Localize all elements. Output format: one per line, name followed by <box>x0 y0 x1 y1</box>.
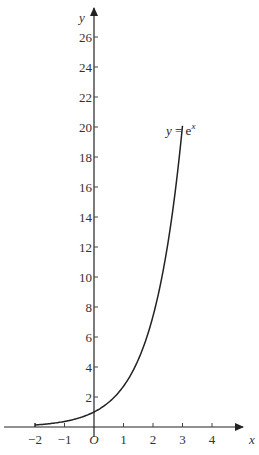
y-tick-label: 6 <box>86 330 93 345</box>
y-tick-label: 2 <box>86 390 93 405</box>
origin-label: O <box>89 432 99 447</box>
y-tick-label: 10 <box>79 270 92 285</box>
x-tick-label: 2 <box>150 432 157 447</box>
y-tick-label: 8 <box>86 300 93 315</box>
y-tick-label: 14 <box>79 210 93 225</box>
curve-y-equals-exp-x <box>35 126 183 427</box>
x-tick-label: 1 <box>120 432 127 447</box>
x-tick-label: 3 <box>179 432 186 447</box>
y-tick-label: 12 <box>79 240 92 255</box>
axes <box>4 8 243 437</box>
x-axis-label: x <box>248 432 255 447</box>
y-axis-label: y <box>77 10 85 25</box>
y-tick-label: 20 <box>79 120 92 135</box>
curve-path <box>35 126 183 425</box>
y-tick-label: 22 <box>79 90 92 105</box>
x-tick-label: −1 <box>58 432 72 447</box>
labels: −2−11234O2468101214161820222426xyy = ex <box>28 10 255 447</box>
x-tick-label: −2 <box>28 432 42 447</box>
y-tick-label: 16 <box>79 180 93 195</box>
ticks <box>35 37 212 427</box>
x-tick-label: 4 <box>209 432 216 447</box>
exponential-chart: −2−11234O2468101214161820222426xyy = ex <box>0 0 259 455</box>
curve-label: y = ex <box>164 121 195 138</box>
y-tick-label: 4 <box>86 360 93 375</box>
y-tick-label: 26 <box>79 30 93 45</box>
y-tick-label: 24 <box>79 60 93 75</box>
y-tick-label: 18 <box>79 150 92 165</box>
